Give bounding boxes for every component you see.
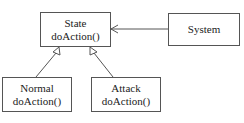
- class-name: State: [65, 17, 87, 30]
- class-box-normal: Normal doAction(): [2, 77, 72, 112]
- inheritance-triangle-icon: [90, 47, 97, 55]
- class-method: doAction(): [13, 95, 61, 108]
- class-name: Attack: [111, 82, 140, 95]
- inheritance-line-normal-state: [36, 53, 56, 77]
- class-name: Normal: [20, 82, 54, 95]
- class-box-state: State doAction(): [40, 12, 111, 47]
- class-name: System: [188, 23, 220, 36]
- class-box-attack: Attack doAction(): [91, 77, 161, 112]
- inheritance-line-attack-state: [94, 53, 113, 77]
- class-box-system: System: [168, 13, 240, 46]
- inheritance-triangle-icon: [53, 47, 60, 55]
- class-method: doAction(): [102, 95, 150, 108]
- class-method: doAction(): [51, 30, 99, 43]
